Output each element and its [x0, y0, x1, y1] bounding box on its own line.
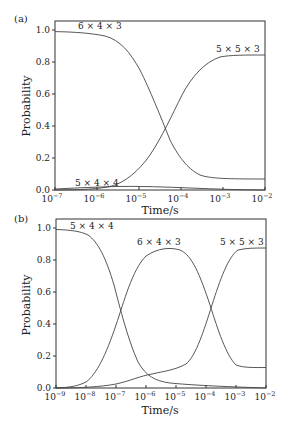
x-tick-label: 10−8: [74, 390, 95, 402]
x-tick-label: 10−7: [41, 192, 62, 204]
x-tick-label: 10−6: [134, 390, 155, 402]
x-tick-label: 10−4: [194, 390, 215, 402]
x-tick-label: 10−7: [104, 390, 125, 402]
x-tick-label: 10−5: [164, 390, 185, 402]
y-tick-label: 1.0: [37, 223, 52, 233]
series-label-5x5x3: 5 × 5 × 3: [216, 44, 260, 54]
y-tick-label: 0.2: [37, 351, 51, 361]
panel-b: (b) 0.0 0.2 0.4 0.6 0.8 1.0 Probability: [14, 213, 276, 417]
figure: (a) 0.0 0.2 0.4 0.6 0.8 1.0 Probability: [0, 0, 289, 429]
series-label-5x5x3: 5 × 5 × 3: [220, 237, 264, 247]
y-axis-title: Probability: [20, 75, 33, 137]
panel-a-x-axis: 10−7 10−6 10−5 10−4 10−3 10−2 Time/s: [41, 187, 272, 217]
x-axis-title: Time/s: [141, 404, 179, 417]
y-tick-label: 0.4: [36, 121, 51, 131]
curve-6x4x3: [56, 248, 266, 388]
y-axis-title: Probability: [20, 274, 33, 336]
x-tick-label: 10−6: [83, 192, 104, 204]
x-tick-label: 10−2: [251, 192, 272, 204]
panel-b-y-axis: 0.0 0.2 0.4 0.6 0.8 1.0 Probability: [20, 223, 56, 393]
panel-a-label: (a): [14, 13, 28, 24]
series-label-6x4x3: 6 × 4 × 3: [137, 237, 181, 247]
x-axis-title: Time/s: [141, 204, 179, 217]
y-tick-label: 1.0: [36, 25, 51, 35]
x-tick-label: 10−3: [224, 390, 245, 402]
panel-b-x-axis: 10−9 10−8 10−7 10−6 10−5 10−4 10−3 10−2 …: [44, 385, 275, 417]
x-tick-label: 10−3: [209, 192, 230, 204]
y-tick-label: 0.8: [36, 57, 51, 67]
y-tick-label: 0.8: [37, 255, 52, 265]
x-tick-label: 10−2: [254, 390, 275, 402]
x-tick-label: 10−5: [125, 192, 146, 204]
curve-5x5x3: [55, 55, 265, 190]
series-label-5x4x4: 5 × 4 × 4: [70, 221, 114, 231]
y-tick-label: 0.6: [37, 287, 52, 297]
curve-5x5x3: [56, 248, 266, 388]
x-tick-label: 10−9: [44, 390, 65, 402]
panel-a: (a) 0.0 0.2 0.4 0.6 0.8 1.0 Probability: [14, 13, 273, 217]
y-tick-label: 0.4: [37, 319, 52, 329]
series-label-5x4x4: 5 × 4 × 4: [75, 178, 119, 188]
y-tick-label: 0.2: [36, 153, 50, 163]
panel-a-y-axis: 0.0 0.2 0.4 0.6 0.8 1.0 Probability: [20, 25, 55, 195]
x-tick-label: 10−4: [167, 192, 188, 204]
panel-b-label: (b): [14, 213, 28, 224]
y-tick-label: 0.6: [36, 89, 51, 99]
series-label-6x4x3: 6 × 4 × 3: [78, 21, 122, 31]
